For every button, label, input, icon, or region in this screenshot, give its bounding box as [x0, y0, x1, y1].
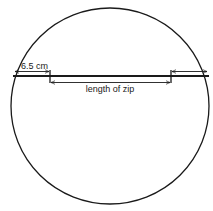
zip-placement-diagram: 6.5 cm length of zip [0, 0, 213, 211]
zip-length-label: length of zip [86, 84, 135, 94]
circle-outline [11, 8, 209, 204]
seam-allowance-label: 6.5 cm [21, 61, 48, 71]
